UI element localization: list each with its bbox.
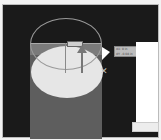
measurement-tooltip: dX: 0 in dY: -0.08 in xyxy=(114,46,137,57)
center-guide-line xyxy=(65,43,66,73)
side-panel xyxy=(136,42,158,122)
ellipse-outline-preview xyxy=(30,18,102,70)
arrow-up-icon xyxy=(77,45,87,53)
pointer-cursor-icon xyxy=(102,47,110,60)
close-x-icon: ✕ xyxy=(100,67,108,76)
panel-bottom-bar[interactable] xyxy=(132,122,159,132)
tooltip-dy: dY: -0.08 in xyxy=(116,52,135,57)
